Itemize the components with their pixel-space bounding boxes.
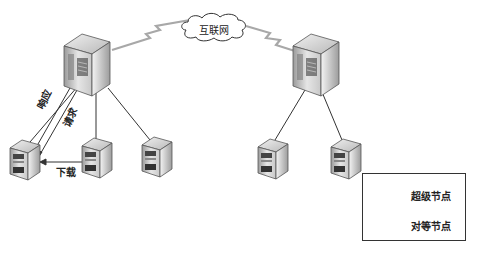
peer-node-left-1	[10, 140, 40, 180]
peer-node-left-3	[142, 137, 172, 177]
peer-node-right-1	[258, 139, 288, 179]
download-label: 下载	[56, 164, 76, 179]
legend: 超级节点 对等节点	[362, 173, 466, 241]
legend-label-super-node: 超级节点	[411, 188, 451, 203]
super-node-right	[293, 34, 339, 96]
wan-link-right	[246, 26, 298, 52]
wan-link-left	[112, 20, 190, 50]
right-cluster-links	[275, 90, 342, 140]
peer-node-right-2	[331, 139, 361, 179]
peer-node-left-2	[82, 138, 112, 178]
cloud-label: 互联网	[199, 22, 229, 37]
legend-label-peer-node: 对等节点	[411, 218, 451, 233]
super-node-left	[64, 34, 110, 96]
